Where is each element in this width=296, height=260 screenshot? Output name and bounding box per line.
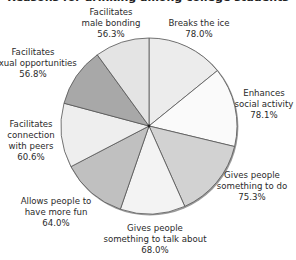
slice-label: Facilitatesconnectionwith peers60.6%	[7, 119, 54, 163]
slice-label-line: 60.6%	[7, 152, 54, 163]
slice-label-line: Facilitates	[82, 7, 141, 18]
slice-label: Facilitatesmale bonding56.3%	[82, 7, 141, 40]
slice-label-line: 56.3%	[82, 29, 141, 40]
slice-label: Allows people tohave more fun64.0%	[21, 196, 92, 229]
slice-label-line: have more fun	[21, 207, 92, 218]
slice-label-line: Facilitates	[0, 47, 77, 58]
slice-label-line: with peers	[7, 141, 54, 152]
slice-label-line: 68.0%	[103, 245, 206, 256]
slice-label-line: male bonding	[82, 18, 141, 29]
slice-label-line: 78.0%	[168, 29, 229, 40]
slice-label-line: 78.1%	[235, 110, 294, 121]
slice-label-line: Gives people	[103, 223, 206, 234]
slice-label-line: Enhances	[235, 88, 294, 99]
slice-label-line: 64.0%	[21, 218, 92, 229]
slice-label-line: social activity	[235, 99, 294, 110]
pie-chart: Reasons for drinking among college stude…	[0, 0, 296, 260]
slice-label-line: 56.8%	[0, 69, 77, 80]
slice-label-line: 75.3%	[217, 192, 287, 203]
pie-center-dot	[148, 125, 151, 128]
slice-label: Breaks the ice78.0%	[168, 18, 229, 40]
slice-label: Enhancessocial activity78.1%	[235, 88, 294, 121]
slice-label: Gives peoplesomething to do75.3%	[217, 170, 287, 203]
slice-label: Gives peoplesomething to talk about68.0%	[103, 223, 206, 256]
slice-label-line: Allows people to	[21, 196, 92, 207]
slice-label-line: something to do	[217, 181, 287, 192]
slice-label-line: sexual opportunities	[0, 58, 77, 69]
slice-label-line: connection	[7, 130, 54, 141]
slice-label-line: Breaks the ice	[168, 18, 229, 29]
slice-label: Facilitatessexual opportunities56.8%	[0, 47, 77, 80]
slice-label-line: something to talk about	[103, 234, 206, 245]
slice-label-line: Gives people	[217, 170, 287, 181]
slice-label-line: Facilitates	[7, 119, 54, 130]
